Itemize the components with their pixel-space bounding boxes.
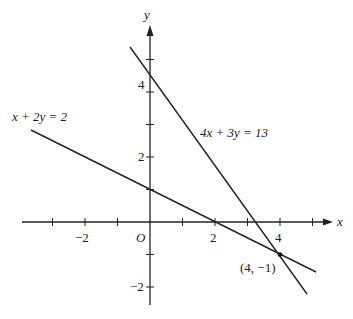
y-tick-label-2: 2 (138, 150, 145, 163)
line-4x-plus-3y-eq-13 (130, 47, 307, 294)
y-tick-label-4: 4 (138, 78, 145, 91)
line2-equation-label: 4x + 3y = 13 (200, 126, 268, 139)
x-tick-label-neg2: −2 (75, 231, 89, 244)
line-x-plus-2y-eq-2 (31, 130, 316, 272)
x-tick-label-2: 2 (210, 231, 217, 244)
x-axis (22, 218, 333, 226)
x-axis-arrow-icon (323, 219, 333, 226)
origin-label: O (136, 231, 145, 244)
line1-equation-label: x + 2y = 2 (12, 110, 67, 123)
intersection-point-label: (4, −1) (240, 261, 276, 274)
y-tick-label-neg2: −2 (130, 280, 144, 293)
intersection-point-marker (278, 252, 282, 256)
x-tick-label-4: 4 (275, 231, 282, 244)
y-axis-arrow-icon (147, 25, 154, 36)
x-axis-label: x (337, 215, 343, 228)
plot-svg (0, 0, 353, 319)
y-axis (146, 25, 154, 305)
chart-canvas: y x O −2 2 4 −2 2 4 x + 2y = 2 4x + 3y =… (0, 0, 353, 319)
y-axis-label: y (144, 8, 150, 21)
